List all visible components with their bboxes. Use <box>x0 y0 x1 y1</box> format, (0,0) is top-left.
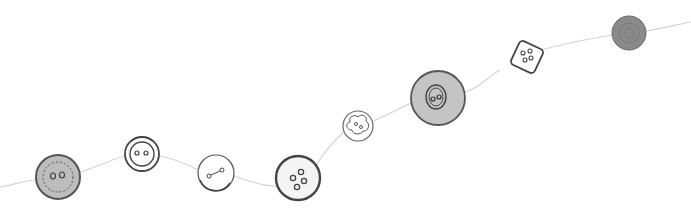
button-icon-gray-fringed <box>36 155 80 199</box>
button-icon-white-slit <box>198 155 234 191</box>
button-icon-four-hole <box>276 156 320 200</box>
button-icon-square <box>510 40 545 75</box>
button-icon-gray-large <box>411 71 465 125</box>
button-icon-white-rimmed <box>125 137 159 171</box>
illustration-canvas: Sketch of sewing buttons strung along a … <box>0 0 691 217</box>
buttons-on-thread-illustration <box>0 0 691 217</box>
thread-line <box>0 22 691 187</box>
button-icon-flower <box>343 111 373 141</box>
button-icon-dark-gray <box>612 16 646 50</box>
